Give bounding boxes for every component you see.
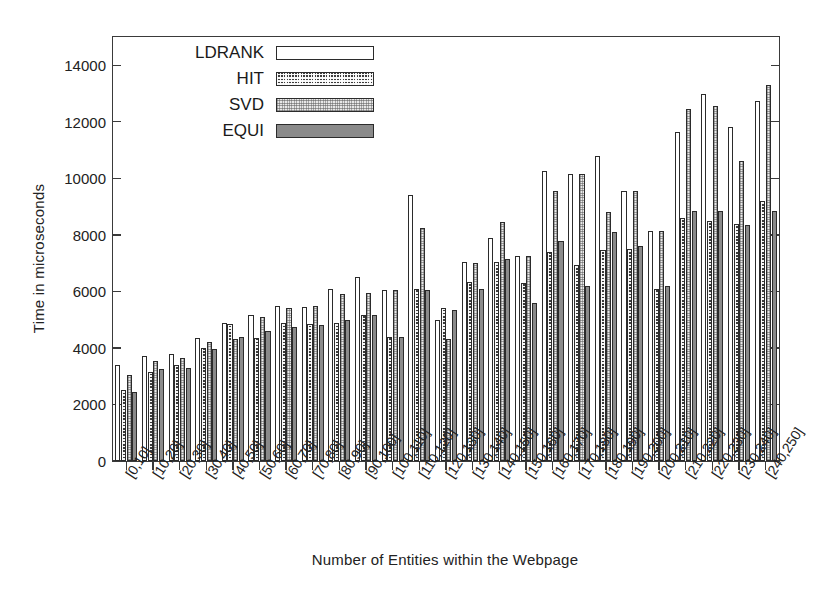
bar-group	[433, 37, 460, 461]
bar-svd	[366, 293, 371, 461]
bar-hit	[760, 201, 765, 461]
bar-svd	[686, 109, 691, 461]
bar-ldrank	[542, 171, 547, 461]
bar-equi	[292, 327, 297, 461]
bar-svd	[153, 361, 158, 461]
x-axis-title: Number of Entities within the Webpage	[110, 551, 780, 568]
bar-ldrank	[462, 262, 467, 461]
bar-svd	[766, 85, 771, 461]
legend-item-equi: EQUI	[126, 118, 374, 144]
bar-group	[459, 37, 486, 461]
bar-group	[406, 37, 433, 461]
bar-ldrank	[355, 277, 360, 461]
bar-hit	[148, 372, 153, 461]
bar-ldrank	[595, 156, 600, 461]
bar-ldrank	[488, 238, 493, 461]
bar-svd	[633, 191, 638, 461]
bar-svd	[713, 106, 718, 461]
bar-group	[566, 37, 593, 461]
bar-ldrank	[728, 127, 733, 461]
bar-group	[699, 37, 726, 461]
bar-equi	[319, 325, 324, 461]
bar-equi	[745, 225, 750, 461]
y-tick-label: 10000	[20, 170, 106, 187]
bar-ldrank	[408, 195, 413, 461]
bar-group	[726, 37, 753, 461]
bar-equi	[345, 320, 350, 461]
bar-hit	[121, 390, 126, 461]
legend-item-ldrank: LDRANK	[126, 40, 374, 66]
bar-svd	[260, 317, 265, 461]
bar-equi	[372, 315, 377, 461]
bar-svd	[127, 375, 132, 461]
legend-item-hit: HIT	[126, 66, 374, 92]
bar-ldrank	[515, 256, 520, 461]
bar-group	[752, 37, 779, 461]
bar-equi	[159, 369, 164, 461]
legend-label: EQUI	[222, 121, 264, 141]
bar-group	[379, 37, 406, 461]
bar-svd	[739, 161, 744, 461]
bar-equi	[692, 211, 697, 461]
legend-label: SVD	[229, 95, 264, 115]
bar-group	[513, 37, 540, 461]
bar-svd	[553, 191, 558, 461]
bar-equi	[612, 232, 617, 461]
bar-ldrank	[755, 101, 760, 461]
bar-ldrank	[675, 132, 680, 461]
bar-svd	[286, 308, 291, 461]
bar-group	[619, 37, 646, 461]
x-axis: [0,10][10,20][20,30][30,40][40,50][50,60…	[113, 462, 779, 552]
chart-legend: LDRANKHITSVDEQUI	[126, 40, 374, 144]
bar-equi	[186, 368, 191, 461]
y-tick-label: 0	[20, 453, 106, 470]
legend-swatch-ldrank	[276, 46, 374, 60]
bar-group	[646, 37, 673, 461]
y-tick-label: 4000	[20, 339, 106, 356]
bar-group	[539, 37, 566, 461]
bar-ldrank	[115, 365, 120, 461]
bar-ldrank	[701, 94, 706, 461]
bar-svd	[606, 212, 611, 461]
y-tick-label: 8000	[20, 226, 106, 243]
legend-swatch-equi	[276, 124, 374, 138]
bar-ldrank	[328, 289, 333, 461]
legend-label: HIT	[237, 69, 264, 89]
bar-svd	[579, 174, 584, 461]
bar-equi	[718, 211, 723, 461]
bar-group	[672, 37, 699, 461]
bar-equi	[239, 337, 244, 461]
y-tick-label: 12000	[20, 113, 106, 130]
y-tick-label: 6000	[20, 283, 106, 300]
bar-chart-figure: Time in microseconds 0200040006000800010…	[0, 0, 824, 593]
legend-label: LDRANK	[195, 43, 264, 63]
bar-ldrank	[568, 174, 573, 461]
y-tick-label: 2000	[20, 396, 106, 413]
bar-group	[486, 37, 513, 461]
bar-equi	[212, 349, 217, 461]
legend-item-svd: SVD	[126, 92, 374, 118]
bar-ldrank	[648, 231, 653, 461]
legend-swatch-svd	[276, 98, 374, 112]
bar-equi	[772, 211, 777, 461]
bar-svd	[313, 306, 318, 461]
bar-svd	[340, 294, 345, 461]
legend-swatch-hit	[276, 72, 374, 86]
bar-group	[593, 37, 620, 461]
bar-ldrank	[621, 191, 626, 461]
bar-equi	[265, 331, 270, 461]
y-tick-label: 14000	[20, 57, 106, 74]
